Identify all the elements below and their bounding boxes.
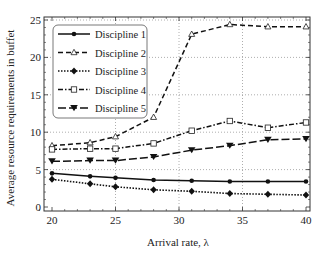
legend-label: Discipline 2 — [95, 48, 146, 59]
x-tick-label: 20 — [47, 214, 59, 226]
x-tick-label: 25 — [110, 214, 122, 226]
marker-diamond — [150, 186, 156, 193]
y-axis-label: Average resource requirements in buffet — [4, 30, 16, 207]
marker-triangle-open — [303, 24, 309, 29]
marker-diamond — [112, 183, 118, 190]
x-tick-label: 40 — [301, 214, 313, 226]
y-tick-label: 5 — [36, 164, 42, 176]
series-1 — [50, 171, 309, 184]
marker-circle — [88, 174, 93, 179]
marker-square-open — [71, 87, 76, 92]
marker-triangle-down — [302, 136, 310, 142]
marker-circle — [113, 176, 118, 181]
marker-circle — [228, 179, 233, 184]
marker-triangle-open — [227, 21, 233, 26]
y-tick-label: 20 — [30, 51, 42, 63]
x-axis-label: Arrival rate, λ — [147, 236, 209, 248]
marker-square-open — [265, 125, 270, 130]
marker-square-open — [227, 118, 232, 123]
y-tick-label: 25 — [30, 14, 42, 26]
series-4 — [49, 118, 308, 152]
legend-label: Discipline 3 — [95, 66, 146, 77]
marker-square-open — [87, 146, 92, 151]
line-chart: 20253035400510152025 Discipline 1Discipl… — [0, 0, 323, 260]
marker-diamond — [227, 190, 233, 197]
marker-circle — [151, 178, 156, 183]
marker-triangle-open — [151, 114, 157, 119]
legend-label: Discipline 5 — [95, 103, 146, 114]
legend-label: Discipline 1 — [95, 29, 146, 40]
y-tick-label: 15 — [30, 89, 42, 101]
marker-square-open — [113, 146, 118, 151]
legend: Discipline 1Discipline 2Discipline 3Disc… — [53, 25, 147, 118]
marker-diamond — [189, 188, 195, 195]
y-tick-label: 10 — [30, 126, 42, 138]
marker-square-open — [151, 141, 156, 146]
marker-circle — [50, 171, 55, 176]
marker-square-open — [49, 147, 54, 152]
marker-circle — [72, 32, 77, 37]
marker-diamond — [87, 180, 93, 187]
marker-circle — [266, 179, 271, 184]
x-tick-label: 30 — [174, 214, 186, 226]
x-tick-label: 35 — [237, 214, 249, 226]
marker-diamond — [49, 176, 55, 183]
marker-diamond — [265, 191, 271, 198]
marker-circle — [189, 179, 194, 184]
marker-diamond — [303, 192, 309, 199]
marker-circle — [304, 179, 309, 184]
y-tick-label: 0 — [36, 201, 42, 213]
legend-label: Discipline 4 — [95, 85, 147, 96]
marker-square-open — [189, 128, 194, 133]
marker-square-open — [303, 120, 308, 125]
